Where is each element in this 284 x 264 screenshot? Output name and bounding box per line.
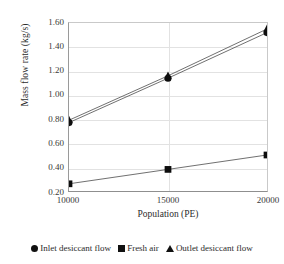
legend-item[interactable]: Fresh air xyxy=(118,243,159,253)
legend-item[interactable]: Outlet desiccant flow xyxy=(166,243,253,253)
y-tick-label: 1.40 xyxy=(34,42,64,51)
series-layer xyxy=(69,23,267,191)
chart-figure: Mass flow rate (kg/s) 0.200.400.600.801.… xyxy=(0,0,284,264)
data-point-square xyxy=(264,152,267,159)
y-tick-label: 0.40 xyxy=(34,163,64,172)
legend-marker-square-icon xyxy=(118,245,125,252)
legend-item-label: Outlet desiccant flow xyxy=(176,243,253,253)
y-tick-label: 0.60 xyxy=(34,139,64,148)
series-triangle xyxy=(69,25,267,123)
legend-marker-triangle-icon xyxy=(166,245,174,252)
x-tick-label: 15000 xyxy=(138,195,198,205)
x-axis-title: Population (PE) xyxy=(68,209,268,219)
x-tick-label: 10000 xyxy=(38,195,98,205)
legend-item-label: Inlet desiccant flow xyxy=(40,243,111,253)
y-tick-label: 1.00 xyxy=(34,90,64,99)
series-square xyxy=(69,152,267,188)
x-tick-label: 20000 xyxy=(238,195,284,205)
y-tick-label: 0.80 xyxy=(34,115,64,124)
y-tick-label: 1.20 xyxy=(34,66,64,75)
plot-area xyxy=(68,22,268,192)
legend-item[interactable]: Inlet desiccant flow xyxy=(31,243,111,253)
x-axis-tick-labels: 100001500020000 xyxy=(68,195,268,209)
y-axis-title: Mass flow rate (kg/s) xyxy=(20,0,30,140)
data-point-square xyxy=(165,166,172,173)
y-tick-label: 1.60 xyxy=(34,18,64,27)
legend-item-label: Fresh air xyxy=(127,243,159,253)
y-axis-tick-labels: 0.200.400.600.801.001.201.401.60 xyxy=(30,0,64,264)
legend-marker-circle-icon xyxy=(31,245,38,252)
data-point-square xyxy=(69,180,72,187)
chart-legend: Inlet desiccant flowFresh airOutlet desi… xyxy=(0,240,284,256)
